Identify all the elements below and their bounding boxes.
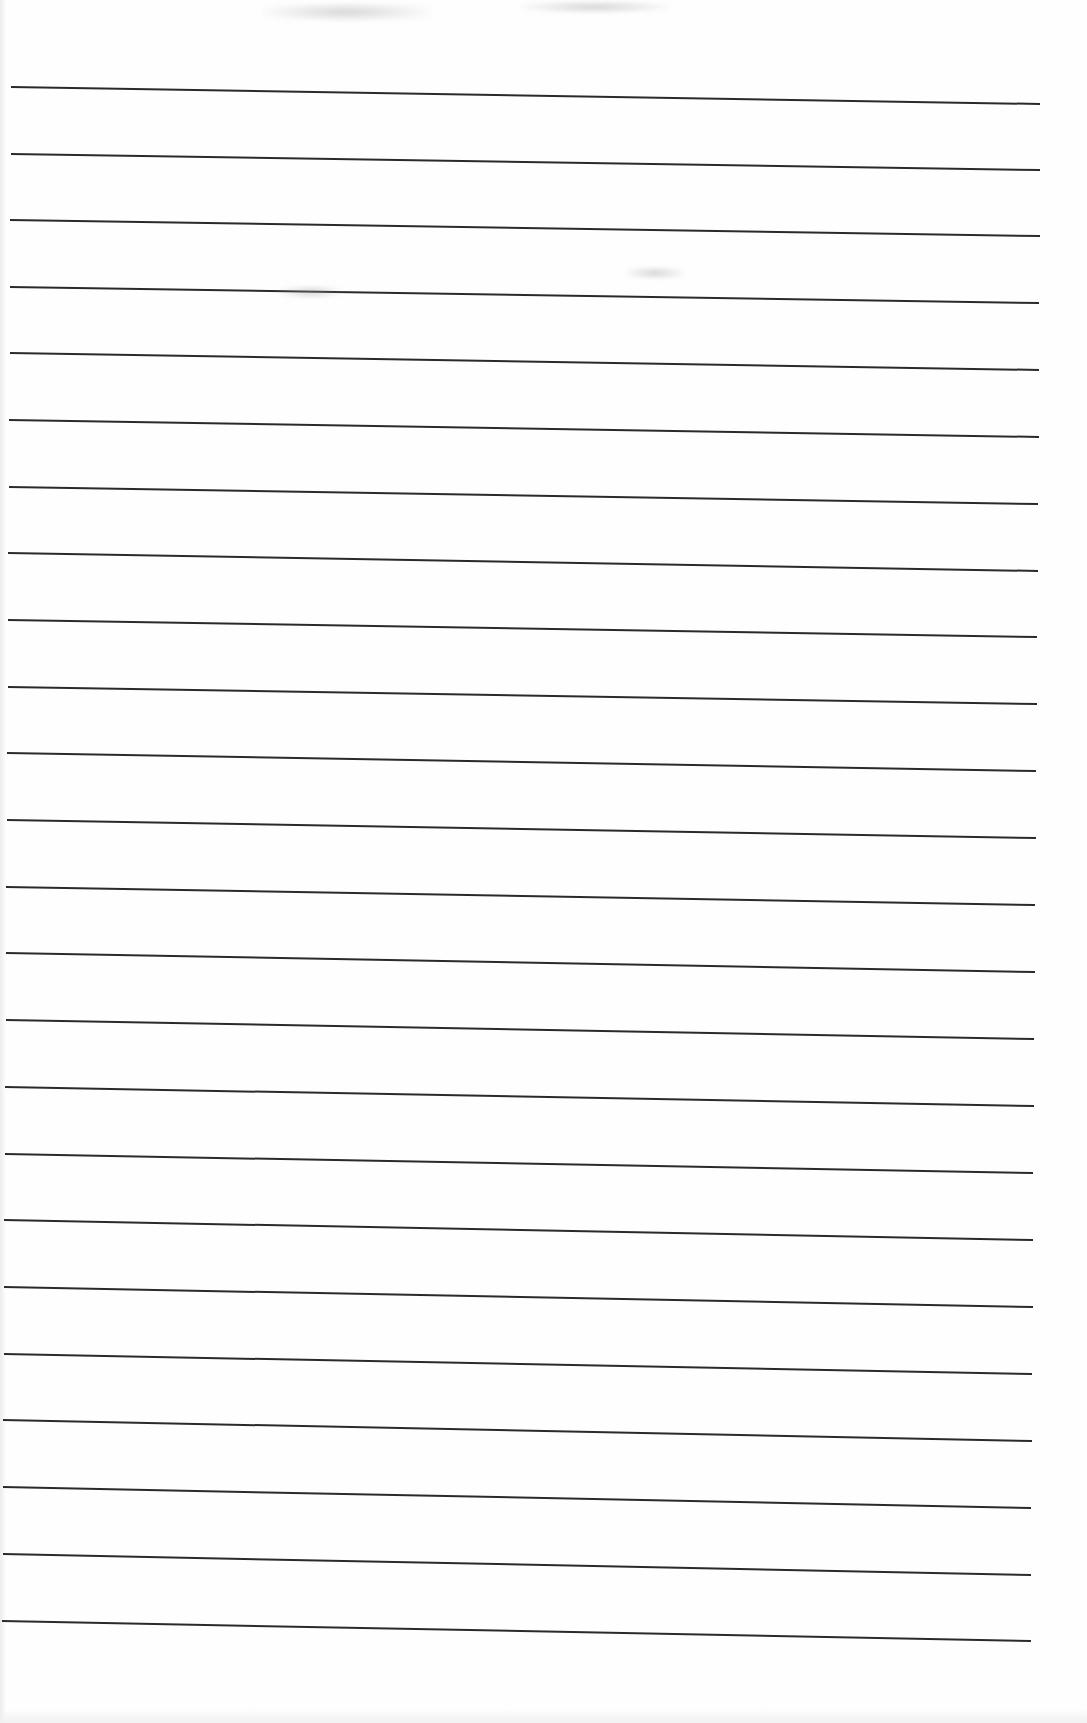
ruled-line [10, 287, 1039, 303]
ruled-line [6, 887, 1035, 905]
ruled-line [10, 220, 1040, 236]
ruled-line [7, 820, 1036, 838]
scan-smudge [625, 266, 685, 280]
ruled-line [9, 487, 1038, 504]
ruled-line [2, 1621, 1031, 1641]
ruled-line [11, 87, 1040, 104]
ruled-line [9, 420, 1039, 437]
ruled-line [8, 687, 1037, 704]
ruled-line [3, 1554, 1031, 1575]
scan-smudge [262, 2, 432, 22]
ruled-line [8, 553, 1038, 571]
ruled-line [8, 620, 1037, 637]
ruled-line [6, 953, 1035, 972]
ruled-lines [0, 0, 1087, 1723]
ruled-line [3, 1487, 1031, 1508]
page-bottom-edge-shadow [0, 1709, 1087, 1723]
ruled-line [11, 154, 1040, 170]
ruled-line [4, 1354, 1032, 1374]
ruled-line [6, 1020, 1034, 1039]
ruled-line [4, 1287, 1033, 1307]
ruled-line [3, 1420, 1032, 1441]
ruled-line [5, 1087, 1034, 1106]
ruled-line [4, 1220, 1033, 1240]
ruled-line [7, 753, 1036, 771]
ruled-line [10, 353, 1039, 370]
ruled-paper-page [0, 0, 1087, 1723]
ruled-line [5, 1154, 1033, 1173]
scan-smudge [278, 285, 343, 299]
scan-smudge [520, 0, 670, 14]
